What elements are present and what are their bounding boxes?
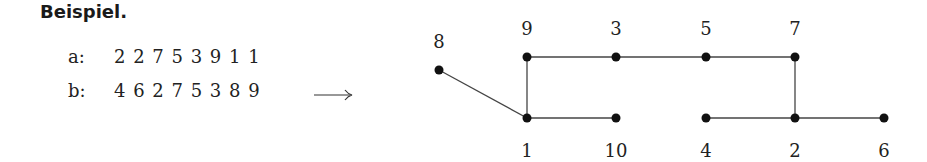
tree-graph: 89357110426	[0, 0, 927, 162]
node-label-8: 8	[433, 31, 444, 52]
node-7	[791, 53, 800, 62]
graph-nodes	[435, 53, 889, 123]
node-6	[880, 114, 889, 123]
node-5	[702, 53, 711, 62]
node-2	[791, 114, 800, 123]
edge-8-1	[439, 70, 527, 118]
node-label-2: 2	[789, 140, 800, 161]
node-3	[612, 53, 621, 62]
node-label-3: 3	[610, 18, 621, 39]
node-10	[612, 114, 621, 123]
node-label-6: 6	[878, 140, 889, 161]
node-label-7: 7	[789, 18, 800, 39]
node-label-4: 4	[700, 140, 711, 161]
node-label-10: 10	[605, 140, 628, 161]
node-8	[435, 66, 444, 75]
node-label-9: 9	[521, 18, 532, 39]
node-label-5: 5	[700, 18, 711, 39]
node-9	[523, 53, 532, 62]
graph-labels: 89357110426	[433, 18, 889, 161]
node-4	[702, 114, 711, 123]
node-label-1: 1	[521, 140, 532, 161]
graph-edges	[439, 57, 884, 118]
node-1	[523, 114, 532, 123]
